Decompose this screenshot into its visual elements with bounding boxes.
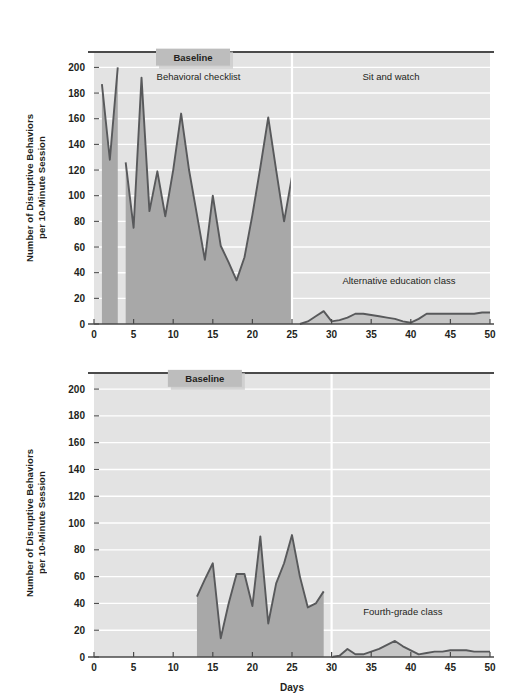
- y-tick-label: 20: [74, 625, 86, 636]
- y-tick-label: 140: [68, 139, 85, 150]
- x-tick-label: 5: [131, 662, 137, 673]
- x-tick-label: 30: [326, 329, 338, 340]
- y-tick-label: 180: [68, 88, 85, 99]
- y-tick-label: 80: [74, 216, 86, 227]
- x-tick-label: 45: [445, 662, 457, 673]
- y-tick-label: 0: [79, 652, 85, 663]
- phase-label-2: Sit and watch: [362, 71, 419, 82]
- y-tick-label: 40: [74, 598, 86, 609]
- y-tick-label: 180: [68, 410, 85, 421]
- y-tick-label: 60: [74, 242, 86, 253]
- x-tick-label: 10: [168, 662, 180, 673]
- x-tick-label: 35: [366, 329, 378, 340]
- x-tick-label: 45: [445, 329, 457, 340]
- x-tick-label: 15: [207, 662, 219, 673]
- chart-panel-top: Number of Disruptive Behaviors per 10-Mi…: [0, 0, 522, 355]
- top-panel-plot: 0510152025303540455002040608010012014016…: [0, 0, 522, 355]
- x-tick-label: 20: [247, 329, 259, 340]
- x-tick-label: 10: [168, 329, 180, 340]
- baseline-label: Baseline: [185, 373, 224, 384]
- x-tick-label: 50: [484, 329, 496, 340]
- bottom-panel-plot: 0510152025303540455002040608010012014016…: [0, 355, 522, 697]
- y-tick-label: 100: [68, 190, 85, 201]
- y-tick-label: 60: [74, 571, 86, 582]
- y-tick-label: 200: [68, 384, 85, 395]
- x-tick-label: 0: [91, 329, 97, 340]
- x-tick-label: 50: [484, 662, 496, 673]
- x-tick-label: 40: [405, 329, 417, 340]
- x-tick-label: 5: [131, 329, 137, 340]
- y-tick-label: 40: [74, 267, 86, 278]
- x-tick-label: 25: [286, 329, 298, 340]
- y-tick-label: 120: [68, 165, 85, 176]
- phase-label-1: Behavioral checklist: [157, 71, 241, 82]
- baseline-label: Baseline: [173, 52, 212, 63]
- y-tick-label: 80: [74, 544, 86, 555]
- chart-panel-bottom: Number of Disruptive Behaviors per 10-Mi…: [0, 355, 522, 697]
- x-tick-label: 25: [286, 662, 298, 673]
- x-tick-label: 40: [405, 662, 417, 673]
- x-tick-label: 35: [366, 662, 378, 673]
- x-tick-label: 15: [207, 329, 219, 340]
- x-tick-label: 0: [91, 662, 97, 673]
- x-tick-label: 20: [247, 662, 259, 673]
- y-tick-label: 160: [68, 437, 85, 448]
- y-tick-label: 160: [68, 113, 85, 124]
- y-tick-label: 200: [68, 62, 85, 73]
- x-axis-title: Days: [280, 682, 304, 693]
- figure-container: Number of Disruptive Behaviors per 10-Mi…: [0, 0, 522, 697]
- y-tick-label: 120: [68, 491, 85, 502]
- phase-label-1: Fourth-grade class: [363, 606, 442, 617]
- phase-label-3: Alternative education class: [342, 275, 455, 286]
- y-tick-label: 0: [79, 319, 85, 330]
- y-tick-label: 100: [68, 518, 85, 529]
- y-tick-label: 140: [68, 464, 85, 475]
- x-tick-label: 30: [326, 662, 338, 673]
- y-tick-label: 20: [74, 293, 86, 304]
